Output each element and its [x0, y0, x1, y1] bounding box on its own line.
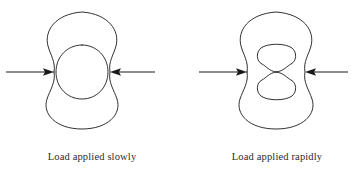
load-arrow-left-slowly	[6, 68, 54, 76]
panel-load-applied-rapidly: Load applied rapidly	[199, 12, 348, 162]
load-arrow-right-rapidly	[305, 68, 348, 76]
load-arrow-right-slowly	[110, 68, 155, 76]
outer-contour-rapidly	[239, 12, 313, 129]
inner-contour-slowly-circle	[56, 45, 108, 99]
caption-load-applied-slowly: Load applied slowly	[48, 151, 137, 162]
mechanics-deformation-diagram: Load applied slowly Load applied rapidly	[0, 0, 364, 175]
outer-contour-slowly	[46, 12, 118, 129]
diagram-canvas: Load applied slowly Load applied rapidly	[0, 0, 364, 175]
panel-load-applied-slowly: Load applied slowly	[6, 12, 155, 162]
load-arrow-left-rapidly	[199, 68, 247, 76]
caption-load-applied-rapidly: Load applied rapidly	[232, 151, 323, 162]
inner-contour-rapidly-peanut	[257, 44, 295, 100]
